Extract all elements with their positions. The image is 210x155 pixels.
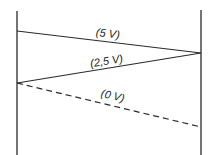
label-0v: (0 V) (100, 87, 126, 104)
voltage-diagram: (5 V) (2,5 V) (0 V) (0, 0, 210, 155)
label-5v: (5 V) (95, 26, 120, 41)
